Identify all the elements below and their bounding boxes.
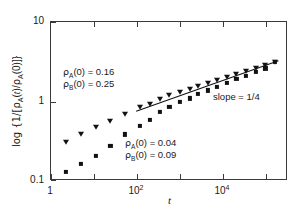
- data-point-series-2: [108, 144, 112, 148]
- data-point-series-1: [214, 78, 220, 83]
- lower-annot-value-2: (0) = 0.09: [135, 149, 176, 160]
- data-point-series-1: [177, 90, 183, 95]
- y-tick-label-1: 1: [14, 96, 44, 106]
- data-point-series-2: [79, 162, 83, 166]
- x-tick-top-decade-5: [266, 22, 267, 27]
- data-point-series-2: [196, 92, 200, 96]
- x-tick-top-decade-2: [137, 22, 138, 27]
- x-tick-10000-base: 10: [214, 185, 225, 196]
- data-point-series-2: [234, 77, 238, 81]
- data-point-series-2: [94, 153, 98, 157]
- data-point-series-1: [205, 81, 211, 86]
- data-point-series-2: [64, 170, 68, 174]
- data-point-series-2: [273, 60, 277, 64]
- figure-canvas: log {1/[ρA(t)/ρA(0)]} 10 1 0.1 1 102 104…: [0, 0, 295, 213]
- lower-annot-line-1: ρA(0) = 0.04: [125, 137, 176, 149]
- data-point-series-2: [215, 85, 219, 89]
- data-point-series-2: [225, 81, 229, 85]
- data-point-series-2: [123, 132, 127, 136]
- lower-density-annotation: ρA(0) = 0.04 ρB(0) = 0.09: [125, 137, 176, 160]
- x-tick-decade-3: [180, 174, 181, 179]
- y-axis-t-var: t: [11, 91, 22, 94]
- x-tick-decade-4: [223, 174, 224, 179]
- x-tick-decade-5: [266, 174, 267, 179]
- data-point-series-1: [166, 93, 172, 98]
- data-point-series-1: [187, 86, 193, 91]
- lower-annot-value-1: (0) = 0.04: [135, 137, 176, 148]
- x-tick-label-1: 1: [47, 186, 53, 196]
- x-tick-10000-exp: 4: [226, 184, 230, 191]
- data-point-series-1: [93, 125, 99, 130]
- x-tick-top-decade-3: [180, 22, 181, 27]
- upper-annot-line-1: ρA(0) = 0.16: [63, 66, 114, 78]
- lower-annot-line-2: ρB(0) = 0.09: [125, 149, 176, 161]
- data-point-series-2: [254, 70, 258, 74]
- y-tick-decade-10: [51, 22, 56, 23]
- x-tick-label-100: 102: [128, 186, 143, 196]
- slope-annotation: slope = 1/4: [213, 91, 260, 103]
- data-point-series-2: [205, 88, 209, 92]
- y-tick-decade-0.1: [51, 180, 56, 181]
- x-tick-decade-0: [51, 174, 52, 179]
- y-axis-title-prefix: log {1/[: [11, 109, 22, 147]
- data-point-series-1: [195, 84, 201, 89]
- data-point-series-1: [157, 97, 163, 102]
- x-tick-label-10000: 104: [214, 186, 229, 196]
- data-point-series-2: [167, 105, 171, 109]
- x-tick-decade-2: [137, 174, 138, 179]
- data-point-series-1: [122, 112, 128, 117]
- y-axis-mid2: )/: [11, 85, 22, 91]
- upper-annot-line-2: ρB(0) = 0.25: [63, 78, 114, 90]
- x-tick-100-base: 10: [128, 185, 139, 196]
- upper-annot-value-2: (0) = 0.25: [73, 78, 114, 89]
- x-tick-decade-1: [94, 174, 95, 179]
- data-point-series-2: [138, 124, 142, 128]
- data-point-series-2: [263, 66, 267, 70]
- data-point-series-2: [188, 96, 192, 100]
- data-point-series-2: [148, 118, 152, 122]
- data-point-series-1: [224, 75, 230, 80]
- data-point-series-1: [63, 139, 69, 144]
- upper-annot-value-1: (0) = 0.16: [73, 66, 114, 77]
- x-tick-top-decade-4: [223, 22, 224, 27]
- y-axis-title-suffix: (0)]}: [11, 56, 22, 74]
- rho-symbol-2: ρ: [11, 79, 22, 85]
- data-point-series-2: [157, 110, 161, 114]
- data-point-series-1: [137, 105, 143, 110]
- y-tick-label-0.1: 0.1: [9, 175, 44, 185]
- x-tick-100-exp: 2: [140, 184, 144, 191]
- data-point-series-1: [147, 102, 153, 107]
- y-tick-label-10: 10: [14, 16, 44, 26]
- x-tick-top-decade-1: [94, 22, 95, 27]
- y-tick-decade-1: [51, 102, 56, 103]
- data-point-series-2: [178, 100, 182, 104]
- data-point-series-1: [107, 118, 113, 123]
- data-point-series-2: [244, 73, 248, 77]
- data-point-series-1: [78, 132, 84, 137]
- x-axis-title: t: [168, 194, 171, 206]
- y-axis-sub-a2: A: [17, 74, 24, 79]
- upper-density-annotation: ρA(0) = 0.16 ρB(0) = 0.25: [63, 66, 114, 89]
